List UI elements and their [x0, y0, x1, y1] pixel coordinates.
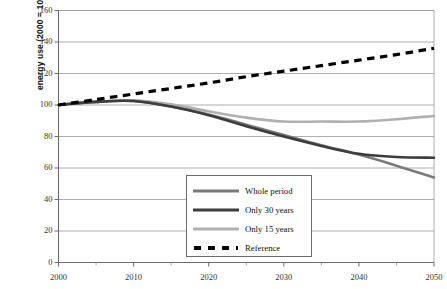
y-tick-label: 60	[27, 162, 53, 172]
y-tick-label: 100	[27, 99, 53, 109]
legend-item-only-15-years: Only 15 years	[187, 219, 311, 238]
series-line-reference	[59, 48, 435, 105]
legend-item-only-30-years: Only 30 years	[187, 200, 311, 219]
y-tick-label: 140	[27, 36, 53, 46]
y-tick-label: 20	[27, 225, 53, 235]
legend-swatch-only-30-years	[193, 205, 239, 215]
series-line-whole-period	[59, 101, 435, 178]
chart-legend: Whole period Only 30 years Only 15 years…	[186, 175, 312, 257]
x-tick-label: 2050	[414, 272, 447, 282]
y-tick-label: 0	[27, 257, 53, 267]
x-tick-label: 2040	[339, 272, 379, 282]
legend-swatch-reference	[193, 243, 239, 253]
series-line-only-15-years	[59, 100, 435, 122]
legend-label-reference: Reference	[245, 243, 280, 253]
y-tick-label: 160	[27, 5, 53, 15]
legend-label-whole-period: Whole period	[245, 186, 293, 196]
x-tick-label: 2010	[114, 272, 154, 282]
legend-item-whole-period: Whole period	[187, 181, 311, 200]
x-tick-label: 2000	[39, 272, 79, 282]
y-tick-label: 40	[27, 194, 53, 204]
legend-swatch-only-15-years	[193, 224, 239, 234]
dashed-line-icon	[193, 246, 239, 250]
legend-label-only-15-years: Only 15 years	[245, 224, 294, 234]
y-tick-label: 120	[27, 68, 53, 78]
energy-use-line-chart: energy use (2000 = 100) Whole period Onl…	[0, 0, 447, 289]
legend-swatch-whole-period	[193, 186, 239, 196]
series-line-only-30-years	[59, 101, 435, 158]
legend-item-reference: Reference	[187, 238, 311, 257]
x-tick-label: 2020	[189, 272, 229, 282]
legend-label-only-30-years: Only 30 years	[245, 205, 294, 215]
y-tick-label: 80	[27, 131, 53, 141]
x-tick-label: 2030	[264, 272, 304, 282]
